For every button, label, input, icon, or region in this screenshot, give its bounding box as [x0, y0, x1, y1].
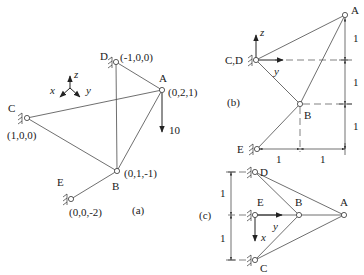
- coords-D: (-1,0,0): [120, 51, 153, 64]
- label-C: C: [8, 102, 15, 114]
- caption-b: (b): [227, 96, 240, 109]
- label-D: D: [100, 50, 108, 62]
- bar-EB: [71, 171, 117, 199]
- bar-E-B: [257, 104, 300, 149]
- label-A-c: A: [340, 196, 348, 208]
- coords-E: (0,0,-2): [69, 206, 102, 219]
- label-B-b: B: [304, 109, 311, 121]
- dim-v1-b: 1: [353, 32, 359, 44]
- joint-CD-b: [253, 57, 258, 62]
- support-D: [108, 57, 112, 68]
- support-E: [63, 194, 67, 205]
- bar-A-B: [300, 15, 345, 104]
- axis-label-x: x: [49, 84, 55, 96]
- bar-AB: [117, 90, 162, 171]
- label-B: B: [112, 180, 119, 192]
- vertical-dimension-b: [339, 18, 352, 149]
- support-C-c: [247, 255, 251, 266]
- support-E-b: [249, 144, 253, 155]
- support-CD: [248, 55, 252, 66]
- vertical-dimension-c: [226, 172, 236, 260]
- joint-A: [159, 87, 164, 92]
- axis-label-x-c: x: [260, 231, 266, 243]
- label-C-c: C: [260, 262, 267, 274]
- label-CD-b: C,D: [225, 54, 243, 66]
- support-D-c: [247, 167, 251, 178]
- coords-A: (0,2,1): [168, 86, 198, 99]
- bar-C-A-c: [255, 215, 344, 260]
- joint-B-c: [296, 212, 301, 217]
- bar-D-B-c: [255, 172, 299, 215]
- joint-B-b: [297, 101, 302, 106]
- label-E: E: [57, 176, 64, 188]
- label-A: A: [159, 72, 167, 84]
- dim-h1-b: 1: [276, 153, 282, 165]
- caption-c: (c): [199, 209, 212, 222]
- joint-D-c: [252, 169, 257, 174]
- dim-h2-b: 1: [320, 153, 326, 165]
- label-E-b: E: [237, 143, 244, 155]
- joint-B: [114, 168, 119, 173]
- bar-CD-A: [256, 15, 345, 60]
- dim-v2-c: 1: [220, 232, 226, 244]
- joint-E: [68, 196, 73, 201]
- bar-DA: [116, 62, 162, 90]
- dim-v3-b: 1: [353, 120, 359, 132]
- panel-b: A C,D B E z y (b) 1 1 1 1 1: [225, 4, 359, 165]
- joint-A-b: [342, 12, 347, 17]
- axis-label-z-b: z: [259, 26, 265, 38]
- joint-C: [24, 115, 29, 120]
- bar-D-A-c: [255, 172, 344, 215]
- joint-D: [113, 59, 118, 64]
- support-E-c: [247, 210, 251, 221]
- bar-CB: [27, 118, 117, 171]
- axis-label-y: y: [85, 84, 91, 96]
- label-B-c: B: [295, 196, 302, 208]
- joint-E-b: [254, 146, 259, 151]
- truss-figure: D (-1,0,0) A (0,2,1) C (1,0,0) (0,1,-1) …: [0, 0, 364, 275]
- support-C: [18, 113, 22, 124]
- bar-DB: [116, 62, 117, 171]
- label-E-c: E: [257, 196, 264, 208]
- dim-v2-b: 1: [353, 76, 359, 88]
- dim-v1-c: 1: [220, 187, 226, 199]
- panel-c: D E B A C y x (c) 1 1: [199, 166, 348, 274]
- label-D-c: D: [260, 166, 268, 178]
- axis-label-y-b: y: [273, 65, 279, 77]
- joint-A-c: [341, 212, 346, 217]
- caption-a: (a): [132, 204, 145, 217]
- panel-a: D (-1,0,0) A (0,2,1) C (1,0,0) (0,1,-1) …: [7, 50, 198, 219]
- axis-label-y-c: y: [272, 220, 278, 232]
- load-value: 10: [169, 124, 181, 136]
- coords-B: (0,1,-1): [124, 167, 157, 180]
- label-A-b: A: [351, 4, 359, 16]
- coords-C: (1,0,0): [7, 129, 37, 142]
- bar-CA: [27, 90, 162, 118]
- joint-E-c: [252, 212, 257, 217]
- joint-C-c: [252, 257, 257, 262]
- axis-label-z: z: [73, 68, 79, 80]
- horizontal-dimension-b: [259, 143, 345, 155]
